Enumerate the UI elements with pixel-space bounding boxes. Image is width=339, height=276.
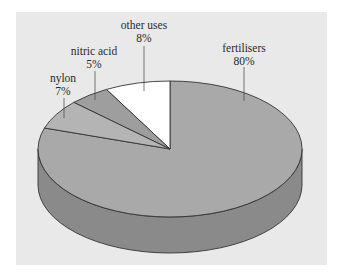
pie-chart [0, 0, 339, 276]
label-fertilisers: fertilisers 80% [222, 42, 265, 68]
label-nylon-value: 7% [50, 85, 76, 98]
label-nitric-acid-value: 5% [71, 58, 117, 71]
label-nitric-acid: nitric acid 5% [71, 45, 117, 71]
label-other-uses: other uses 8% [121, 19, 167, 45]
label-nylon: nylon 7% [50, 72, 76, 98]
label-nitric-acid-name: nitric acid [71, 45, 117, 58]
label-fertilisers-name: fertilisers [222, 42, 265, 55]
label-other-uses-name: other uses [121, 19, 167, 32]
label-fertilisers-value: 80% [222, 55, 265, 68]
label-other-uses-value: 8% [121, 32, 167, 45]
label-nylon-name: nylon [50, 72, 76, 85]
